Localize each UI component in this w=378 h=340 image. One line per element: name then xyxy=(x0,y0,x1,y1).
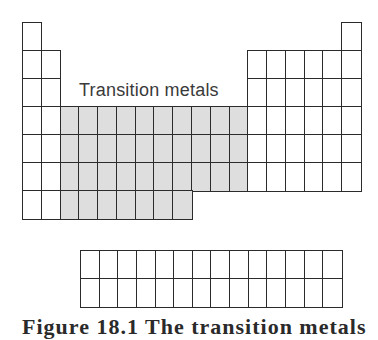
f-block-cell-r1-c5 xyxy=(155,250,175,280)
element-cell-r6-c18 xyxy=(341,162,361,192)
element-cell-r2-c1 xyxy=(22,50,42,80)
element-cell-r5-c17 xyxy=(322,134,342,164)
f-block-cell-r1-c8 xyxy=(210,250,230,280)
element-cell-r6-c1 xyxy=(22,162,42,192)
element-cell-r6-c13 xyxy=(247,162,267,192)
element-cell-r2-c13 xyxy=(247,50,267,80)
element-cell-r4-c5 xyxy=(97,106,117,136)
element-cell-r7-c6 xyxy=(116,190,136,220)
figure-caption: Figure 18.1 The transition metals xyxy=(22,314,366,340)
f-block-cell-r1-c9 xyxy=(229,250,249,280)
f-block-cell-r2-c13 xyxy=(304,278,324,308)
element-cell-r5-c7 xyxy=(135,134,155,164)
element-cell-r5-c10 xyxy=(191,134,211,164)
element-cell-r4-c8 xyxy=(153,106,173,136)
element-cell-r5-c12 xyxy=(229,134,249,164)
f-block-cell-r2-c4 xyxy=(136,278,156,308)
element-cell-r4-c10 xyxy=(191,106,211,136)
element-cell-r2-c18 xyxy=(341,50,361,80)
element-cell-r7-c9 xyxy=(172,190,192,220)
element-cell-r7-c1 xyxy=(22,190,42,220)
element-cell-r3-c1 xyxy=(22,78,42,108)
element-cell-r5-c8 xyxy=(153,134,173,164)
element-cell-r5-c16 xyxy=(304,134,324,164)
element-cell-r4-c6 xyxy=(116,106,136,136)
element-cell-r6-c7 xyxy=(135,162,155,192)
element-cell-r6-c10 xyxy=(191,162,211,192)
f-block-cell-r1-c13 xyxy=(304,250,324,280)
element-cell-r5-c9 xyxy=(172,134,192,164)
element-cell-r3-c17 xyxy=(322,78,342,108)
element-cell-r5-c1 xyxy=(22,134,42,164)
element-cell-r5-c18 xyxy=(341,134,361,164)
element-cell-r6-c16 xyxy=(304,162,324,192)
element-cell-r1-c18 xyxy=(341,22,361,52)
f-block-cell-r1-c6 xyxy=(173,250,193,280)
element-cell-r6-c8 xyxy=(153,162,173,192)
element-cell-r4-c3 xyxy=(60,106,80,136)
f-block-cell-r1-c3 xyxy=(117,250,137,280)
element-cell-r4-c4 xyxy=(78,106,98,136)
f-block-cell-r2-c12 xyxy=(285,278,305,308)
element-cell-r7-c5 xyxy=(97,190,117,220)
element-cell-r7-c2 xyxy=(41,190,61,220)
element-cell-r6-c2 xyxy=(41,162,61,192)
element-cell-r2-c15 xyxy=(285,50,305,80)
element-cell-r3-c16 xyxy=(304,78,324,108)
f-block-cell-r1-c12 xyxy=(285,250,305,280)
element-cell-r5-c5 xyxy=(97,134,117,164)
f-block-cell-r1-c7 xyxy=(192,250,212,280)
element-cell-r6-c3 xyxy=(60,162,80,192)
element-cell-r5-c11 xyxy=(210,134,230,164)
element-cell-r7-c8 xyxy=(153,190,173,220)
element-cell-r4-c9 xyxy=(172,106,192,136)
f-block-cell-r1-c1 xyxy=(80,250,100,280)
f-block-cell-r2-c2 xyxy=(99,278,119,308)
f-block-cell-r2-c7 xyxy=(192,278,212,308)
element-cell-r5-c14 xyxy=(266,134,286,164)
element-cell-r1-c1 xyxy=(22,22,42,52)
element-cell-r4-c12 xyxy=(229,106,249,136)
element-cell-r6-c11 xyxy=(210,162,230,192)
element-cell-r2-c2 xyxy=(41,50,61,80)
f-block-cell-r1-c4 xyxy=(136,250,156,280)
f-block-cell-r2-c8 xyxy=(210,278,230,308)
element-cell-r3-c2 xyxy=(41,78,61,108)
f-block-cell-r2-c11 xyxy=(266,278,286,308)
element-cell-r4-c1 xyxy=(22,106,42,136)
element-cell-r4-c13 xyxy=(247,106,267,136)
f-block-cell-r2-c9 xyxy=(229,278,249,308)
element-cell-r5-c3 xyxy=(60,134,80,164)
f-block-cell-r2-c14 xyxy=(322,278,342,308)
element-cell-r3-c15 xyxy=(285,78,305,108)
element-cell-r3-c14 xyxy=(266,78,286,108)
element-cell-r4-c2 xyxy=(41,106,61,136)
f-block-cell-r2-c10 xyxy=(248,278,268,308)
element-cell-r6-c5 xyxy=(97,162,117,192)
element-cell-r6-c4 xyxy=(78,162,98,192)
element-cell-r7-c3 xyxy=(60,190,80,220)
element-cell-r5-c4 xyxy=(78,134,98,164)
f-block-cell-r1-c2 xyxy=(99,250,119,280)
element-cell-r3-c18 xyxy=(341,78,361,108)
f-block-cell-r1-c10 xyxy=(248,250,268,280)
element-cell-r7-c4 xyxy=(78,190,98,220)
element-cell-r2-c16 xyxy=(304,50,324,80)
f-block-cell-r2-c1 xyxy=(80,278,100,308)
f-block-cell-r1-c11 xyxy=(266,250,286,280)
element-cell-r6-c15 xyxy=(285,162,305,192)
f-block-cell-r2-c5 xyxy=(155,278,175,308)
element-cell-r6-c12 xyxy=(229,162,249,192)
element-cell-r5-c15 xyxy=(285,134,305,164)
element-cell-r5-c13 xyxy=(247,134,267,164)
f-block-cell-r2-c6 xyxy=(173,278,193,308)
element-cell-r6-c17 xyxy=(322,162,342,192)
element-cell-r6-c9 xyxy=(172,162,192,192)
f-block-cell-r1-c14 xyxy=(322,250,342,280)
element-cell-r4-c15 xyxy=(285,106,305,136)
element-cell-r7-c7 xyxy=(135,190,155,220)
element-cell-r5-c6 xyxy=(116,134,136,164)
element-cell-r6-c6 xyxy=(116,162,136,192)
element-cell-r4-c16 xyxy=(304,106,324,136)
element-cell-r6-c14 xyxy=(266,162,286,192)
